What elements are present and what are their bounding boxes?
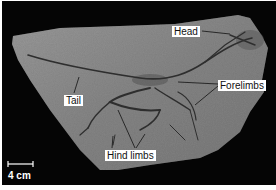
label-tail: Tail bbox=[64, 95, 83, 106]
scale-bar-line bbox=[8, 161, 33, 167]
label-head: Head bbox=[172, 26, 200, 37]
slab-shape bbox=[12, 15, 268, 170]
scale-bar-label: 4 cm bbox=[8, 170, 31, 181]
fossil-slab bbox=[0, 0, 276, 190]
label-hind-limbs: Hind limbs bbox=[105, 150, 156, 161]
label-forelimbs: Forelimbs bbox=[218, 80, 266, 91]
